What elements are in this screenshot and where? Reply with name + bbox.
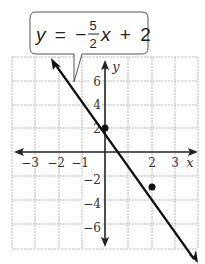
x-axis bbox=[14, 148, 198, 156]
eq-numerator: 5 bbox=[89, 18, 96, 33]
point-0-2 bbox=[102, 125, 109, 132]
eq-plus: + bbox=[120, 24, 131, 45]
eq-sign: − bbox=[75, 24, 86, 45]
y-tick-neg6: −6 bbox=[83, 221, 101, 235]
y-axis-label: y bbox=[111, 59, 120, 74]
eq-denominator: 2 bbox=[89, 36, 96, 51]
x-tick-labels: −3 −2 −1 2 3 x bbox=[21, 155, 194, 170]
equation-callout: y = − 5 2 x + 2 bbox=[30, 12, 151, 82]
svg-text:x + 2: x + 2 bbox=[100, 24, 151, 45]
y-tick-neg2: −2 bbox=[83, 173, 101, 187]
x-tick-neg2: −2 bbox=[47, 156, 65, 170]
x-tick-neg3: −3 bbox=[21, 156, 39, 170]
graph: −3 −2 −1 2 3 x y 6 4 2 −2 −4 −6 y = − 5 bbox=[0, 0, 205, 264]
x-tick-neg1: −1 bbox=[71, 156, 89, 170]
x-tick-3: 3 bbox=[171, 156, 179, 170]
eq-var: x bbox=[100, 24, 112, 45]
eq-lhs: y bbox=[34, 24, 47, 45]
y-tick-4: 4 bbox=[93, 98, 101, 112]
eq-constant: 2 bbox=[140, 24, 151, 45]
y-axis bbox=[101, 60, 109, 247]
y-tick-neg4: −4 bbox=[83, 197, 101, 211]
y-tick-6: 6 bbox=[93, 75, 101, 89]
point-2-neg3 bbox=[149, 184, 156, 191]
eq-equals: = bbox=[55, 24, 66, 45]
x-tick-2: 2 bbox=[148, 156, 156, 170]
svg-text:y = −: y = − bbox=[34, 24, 86, 45]
x-axis-label: x bbox=[186, 155, 194, 170]
